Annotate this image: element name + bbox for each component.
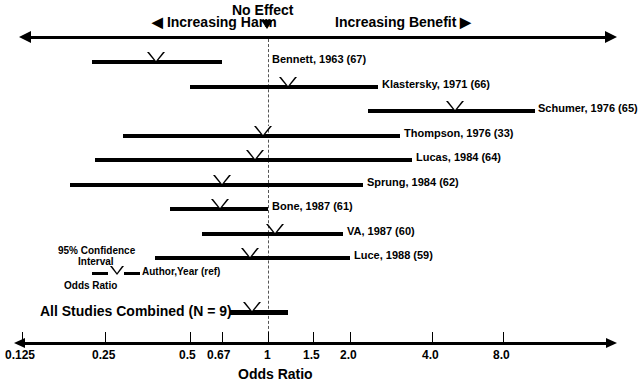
odds-ratio-marker bbox=[254, 126, 272, 137]
legend-ci-line1: 95% Confidence bbox=[58, 245, 135, 256]
odds-ratio-marker bbox=[246, 150, 264, 161]
axis-tick-label: 0.67 bbox=[207, 348, 230, 362]
axis-tick bbox=[432, 332, 433, 342]
odds-ratio-marker bbox=[211, 199, 229, 210]
x-axis-title: Odds Ratio bbox=[238, 366, 313, 382]
odds-ratio-marker bbox=[213, 175, 231, 186]
study-label: Bennett, 1963 (67) bbox=[272, 53, 366, 65]
odds-ratio-marker bbox=[446, 101, 464, 112]
axis-tick-label: 1.5 bbox=[303, 348, 320, 362]
combined-odds-ratio-marker bbox=[243, 302, 261, 313]
axis-tick bbox=[503, 332, 504, 342]
axis-tick bbox=[22, 332, 23, 342]
bottom-axis-line bbox=[25, 342, 608, 345]
study-label: Sprung, 1984 (62) bbox=[367, 176, 459, 188]
axis-tick-label: 0.5 bbox=[179, 348, 196, 362]
right-arrow-icon: ▶ bbox=[460, 14, 471, 30]
bottom-axis-left-arrow-icon bbox=[14, 338, 25, 348]
top-axis-left-arrow-icon bbox=[19, 31, 31, 43]
combined-studies-label: All Studies Combined (N = 9) bbox=[40, 303, 232, 319]
odds-ratio-marker bbox=[241, 248, 259, 259]
study-label: VA, 1987 (60) bbox=[347, 225, 415, 237]
no-effect-reference-line bbox=[268, 39, 269, 339]
axis-tick bbox=[222, 332, 223, 342]
axis-tick-label: 2.0 bbox=[340, 348, 357, 362]
legend-odds-ratio-marker bbox=[110, 266, 124, 275]
axis-tick-label: 0.25 bbox=[92, 348, 115, 362]
axis-tick bbox=[190, 332, 191, 342]
legend-author-year-label: Author,Year (ref) bbox=[142, 266, 220, 277]
legend-ci-line2: Interval bbox=[78, 256, 114, 267]
top-axis-right-arrow-icon bbox=[605, 31, 617, 43]
axis-tick-label: 1 bbox=[264, 348, 271, 362]
study-label: Klastersky, 1971 (66) bbox=[382, 78, 490, 90]
no-effect-label: No Effect bbox=[232, 2, 293, 18]
axis-tick-label: 0.125 bbox=[5, 348, 35, 362]
no-effect-arrow-icon bbox=[261, 20, 273, 29]
bottom-axis-right-arrow-icon bbox=[606, 338, 617, 348]
study-label: Lucas, 1984 (64) bbox=[416, 151, 501, 163]
legend-odds-ratio-label: Odds Ratio bbox=[64, 280, 117, 291]
odds-ratio-marker bbox=[147, 52, 165, 63]
axis-tick bbox=[268, 332, 269, 342]
study-label: Bone, 1987 (61) bbox=[272, 200, 353, 212]
axis-tick bbox=[350, 332, 351, 342]
odds-ratio-marker bbox=[266, 224, 284, 235]
study-label: Thompson, 1976 (33) bbox=[404, 127, 513, 139]
axis-tick bbox=[313, 332, 314, 342]
axis-tick-label: 4.0 bbox=[422, 348, 439, 362]
top-axis-line bbox=[30, 36, 608, 39]
left-arrow-icon: ◀ bbox=[152, 14, 163, 30]
legend-ci-bar-right bbox=[124, 272, 140, 275]
axis-tick-label: 8.0 bbox=[493, 348, 510, 362]
odds-ratio-marker bbox=[279, 77, 297, 88]
increasing-benefit-label: Increasing Benefit ▶ bbox=[335, 14, 471, 30]
study-label: Luce, 1988 (59) bbox=[354, 249, 433, 261]
axis-tick bbox=[105, 332, 106, 342]
legend-ci-bar-left bbox=[92, 272, 108, 275]
study-label: Schumer, 1976 (65) bbox=[538, 102, 638, 114]
